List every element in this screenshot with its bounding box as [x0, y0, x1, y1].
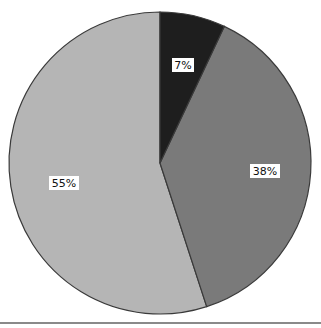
- bottom-divider: [0, 322, 321, 324]
- pie-chart: 7% 38% 55%: [0, 0, 321, 328]
- data-label-text: 7%: [174, 59, 191, 72]
- data-label-text: 55%: [52, 177, 76, 190]
- data-label-text: 38%: [253, 165, 277, 178]
- data-label-55: 55%: [49, 176, 79, 190]
- data-label-38: 38%: [250, 164, 280, 178]
- data-label-7: 7%: [172, 58, 194, 72]
- pie: [9, 12, 311, 314]
